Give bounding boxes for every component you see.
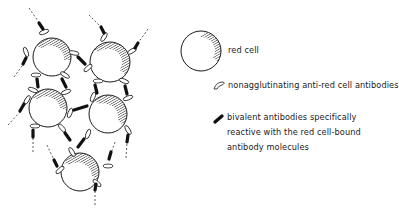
- legend-bivalent-antibody-icon: [215, 116, 222, 122]
- red-cell-3: [29, 89, 67, 127]
- red-cell-2: [90, 42, 130, 82]
- legend-red-cell-icon: [181, 31, 222, 71]
- red-cell-5: [61, 152, 100, 191]
- legend-label-red-cell: red cell: [228, 45, 259, 55]
- legend-nonagglutinating-antibody-icon: [214, 82, 224, 89]
- legend-label-bivalent-antibodies-line-1: bivalent antibodies specifically: [227, 110, 356, 125]
- red-cell-1: [33, 36, 72, 76]
- legend-label-bivalent-antibodies-line-3: antibody molecules: [227, 140, 309, 155]
- red-cell-4: [89, 94, 129, 133]
- legend-label-bivalent-antibodies-line-2: reactive with the red cell-bound: [227, 125, 361, 140]
- legend-label-nonagglutinating-antibodies: nonagglutinating anti-red cell antibodie…: [228, 80, 399, 90]
